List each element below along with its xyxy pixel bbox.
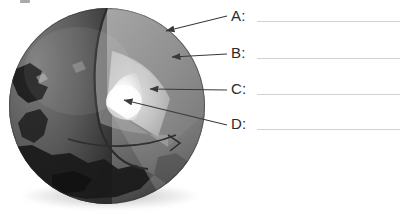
- label-letter-d: D:: [231, 115, 257, 132]
- label-row-d: D:: [231, 112, 400, 134]
- worksheet-page: A: B: C: D:: [0, 0, 400, 214]
- answer-line-b[interactable]: [257, 41, 400, 63]
- answer-line-d[interactable]: [257, 112, 400, 134]
- label-row-c: C:: [231, 77, 400, 99]
- caption-remnant-glyph: [20, 0, 30, 3]
- answer-line-c[interactable]: [257, 77, 400, 99]
- label-row-a: A:: [231, 4, 400, 26]
- label-row-b: B:: [231, 41, 400, 63]
- label-letter-a: A:: [231, 7, 257, 24]
- label-letter-c: C:: [231, 80, 257, 97]
- earth-cutaway-diagram: [8, 7, 206, 205]
- label-letter-b: B:: [231, 44, 257, 61]
- answer-line-a[interactable]: [257, 4, 400, 26]
- globe-graphic: [8, 7, 206, 205]
